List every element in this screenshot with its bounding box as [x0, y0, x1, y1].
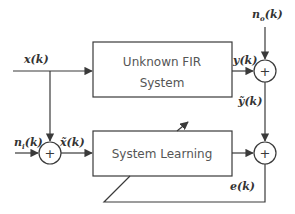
error-feedback-path: e(k) — [104, 164, 265, 202]
input-signal-path: x(k) — [13, 53, 92, 141]
input-noise-label: ni(k) — [14, 136, 43, 151]
block-diagram: Unknown FIR System System Learning x(k) … — [0, 0, 295, 214]
error-signal-label: e(k) — [230, 180, 255, 193]
unknown-fir-system-block: Unknown FIR System — [93, 42, 232, 97]
noisy-input-label: x̃(k) — [59, 136, 85, 149]
system-learning-block: System Learning — [93, 131, 232, 176]
noisy-output-path: ỹ(k) — [237, 82, 265, 141]
error-sum-junction: + — [254, 142, 276, 164]
system-output-label: y(k) — [232, 54, 257, 67]
adaptation-arrow-icon — [177, 122, 188, 131]
input-signal-label: x(k) — [23, 53, 49, 66]
output-noise-sum-junction: + — [254, 60, 276, 82]
output-noise-label: no(k) — [252, 8, 283, 23]
svg-text:+: + — [260, 146, 271, 161]
system-output-path: y(k) — [232, 54, 257, 71]
svg-text:+: + — [260, 64, 271, 79]
svg-text:+: + — [45, 146, 56, 161]
noisy-output-label: ỹ(k) — [237, 95, 262, 108]
input-noise-path: ni(k) — [14, 136, 43, 153]
unknown-system-label-line1: Unknown FIR — [123, 55, 201, 69]
noisy-input-path: x̃(k) — [59, 136, 92, 153]
output-noise-path: no(k) — [252, 8, 283, 59]
learning-system-label: System Learning — [112, 147, 213, 161]
unknown-system-label-line2: System — [140, 76, 185, 90]
